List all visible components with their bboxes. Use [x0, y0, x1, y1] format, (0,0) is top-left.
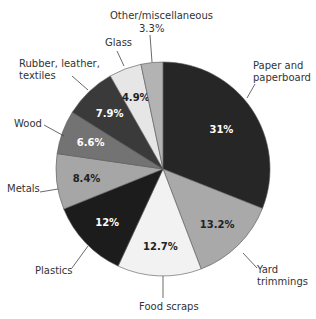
label-metals: Metals — [7, 183, 40, 195]
leader-line — [117, 51, 124, 66]
leader-line — [72, 246, 88, 268]
label-rubber-line1: Rubber, leather, — [19, 58, 100, 70]
label-yard-line1: Yard — [257, 264, 308, 276]
label-wood: Wood — [14, 118, 42, 130]
label-yard: Yard trimmings — [257, 264, 308, 288]
slice-value-label: 4.9% — [122, 92, 150, 103]
label-glass: Glass — [105, 37, 132, 49]
slice-value-label: 6.6% — [77, 137, 105, 148]
label-rubber-line2: textiles — [19, 70, 100, 82]
slice-value-label: 31% — [209, 124, 233, 135]
label-other-value: 3.3% — [139, 23, 164, 35]
leader-line — [44, 125, 64, 136]
label-food: Food scraps — [139, 301, 199, 313]
leader-line — [247, 84, 255, 98]
slice-value-label: 12% — [95, 217, 119, 228]
label-plastics: Plastics — [35, 265, 73, 277]
leader-line — [243, 253, 257, 268]
label-yard-line2: trimmings — [257, 276, 308, 288]
label-paper-line1: Paper and — [253, 60, 311, 72]
pie-chart: 31%13.2%12.7%12%8.4%6.6%7.9%4.9% Paper a… — [0, 0, 316, 319]
leader-line — [150, 35, 152, 62]
leader-line — [40, 189, 58, 192]
label-paper-line2: paperboard — [253, 72, 311, 84]
label-paper: Paper and paperboard — [253, 60, 311, 84]
slice-value-label: 13.2% — [200, 219, 235, 230]
slice-value-label: 12.7% — [143, 241, 178, 252]
slice-value-label: 7.9% — [96, 108, 124, 119]
label-other: Other/miscellaneous — [110, 10, 213, 22]
slice-value-label: 8.4% — [73, 173, 101, 184]
label-rubber: Rubber, leather, textiles — [19, 58, 100, 82]
